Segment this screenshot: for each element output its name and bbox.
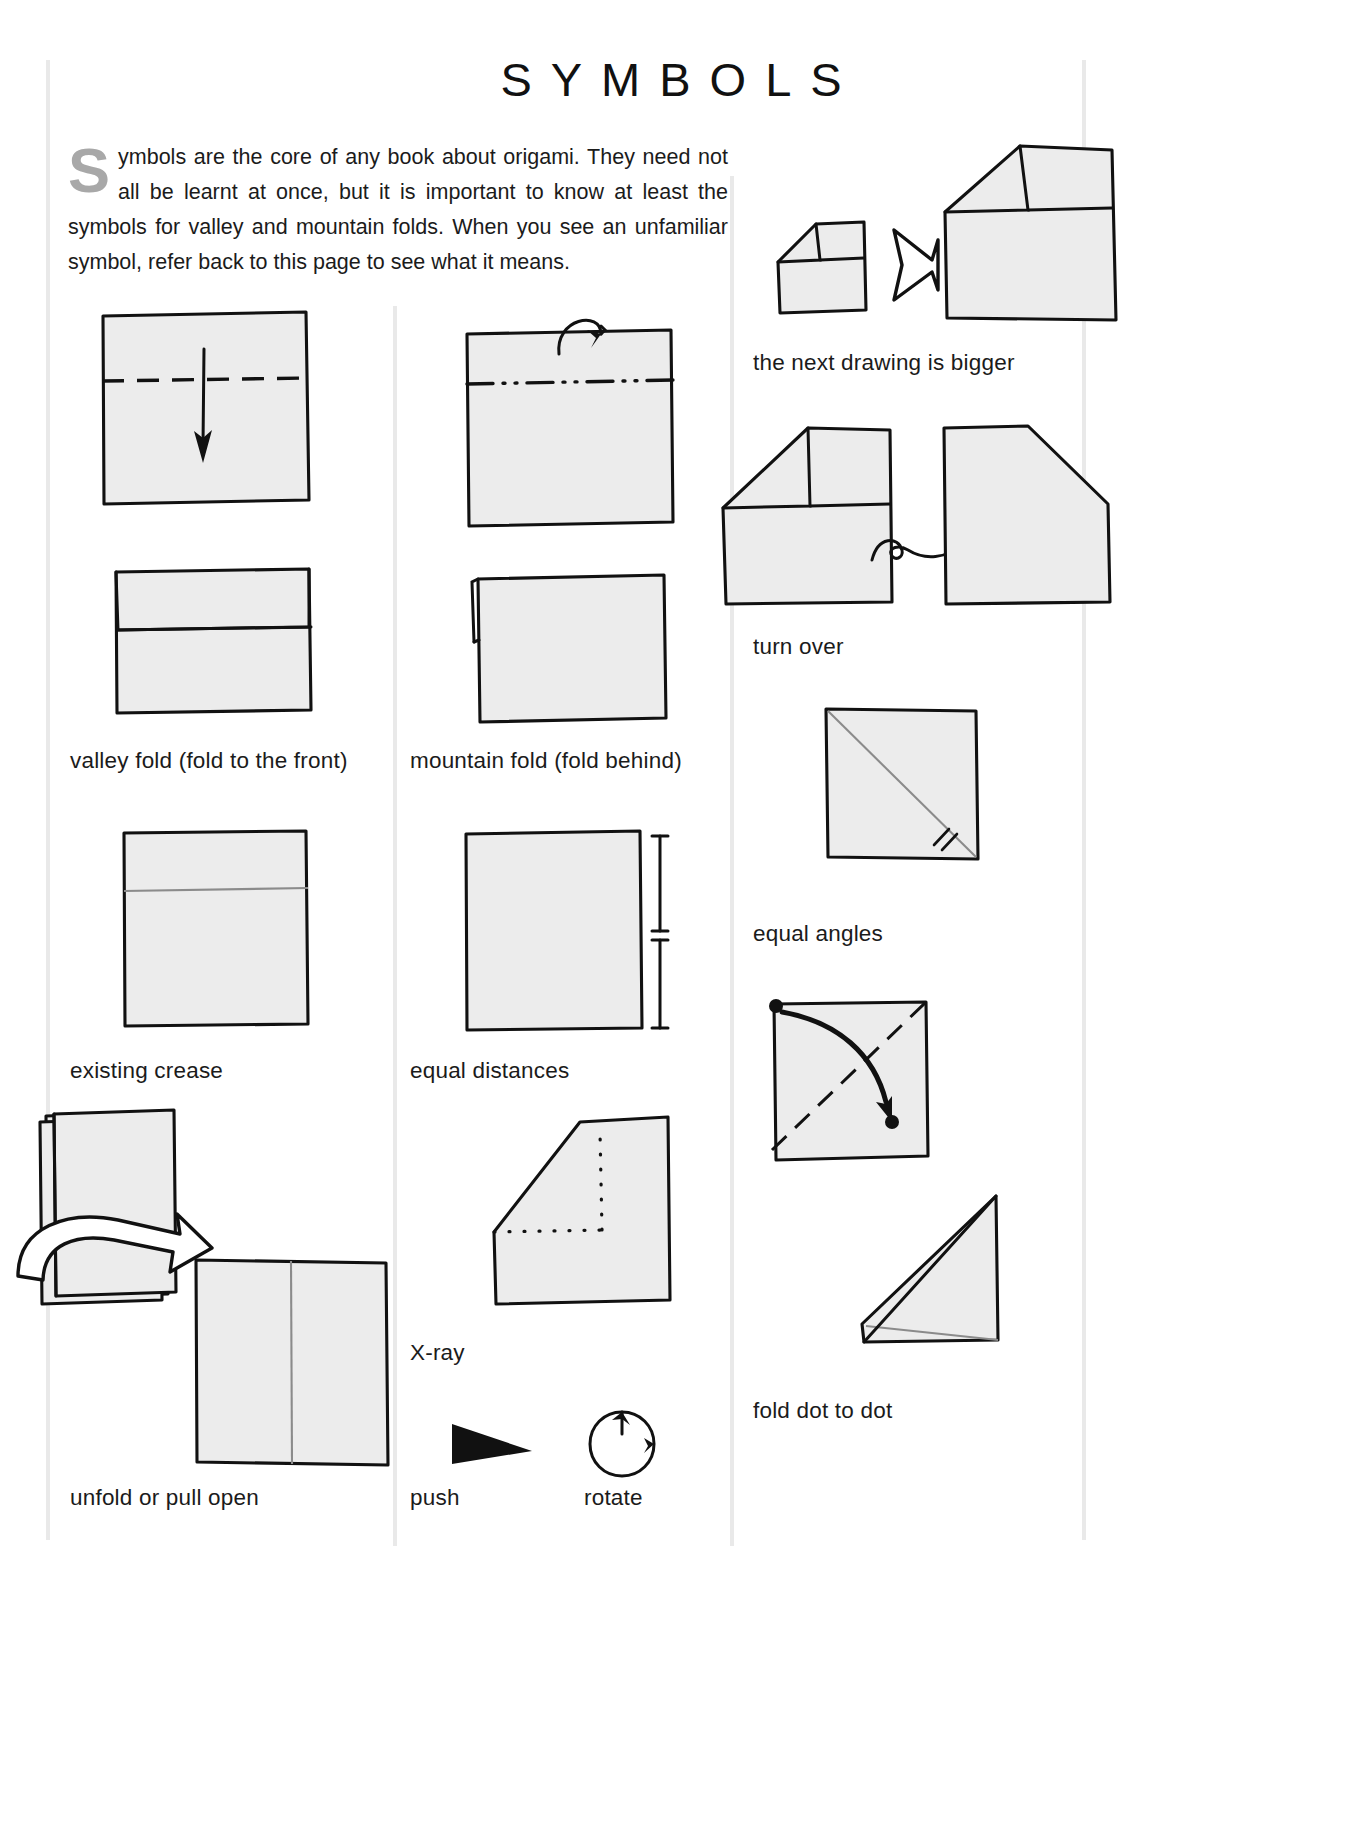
figure-fold-dot-to-dot-before [768, 998, 938, 1168]
figure-existing-crease [120, 828, 310, 1028]
caption-push: push [410, 1485, 460, 1511]
drop-cap: S [68, 144, 110, 196]
figure-equal-distances [462, 828, 672, 1033]
figure-x-ray [490, 1112, 680, 1307]
figure-push [448, 1418, 548, 1478]
figure-bigger-arrow [886, 226, 942, 304]
caption-mountain-fold: mountain fold (fold behind) [410, 748, 682, 774]
caption-x-ray: X-ray [410, 1340, 465, 1366]
figure-bigger-large [940, 140, 1120, 324]
figure-valley-fold-after [112, 566, 312, 716]
figure-rotate [582, 1404, 662, 1484]
figure-unfold-result [192, 1255, 392, 1470]
figure-valley-fold-before [98, 308, 313, 508]
figure-unfold-arrow [10, 1200, 220, 1310]
caption-equal-angles: equal angles [753, 921, 883, 947]
page-title: SYMBOLS [0, 52, 1361, 107]
origami-symbols-page: SYMBOLS Symbols are the core of any book… [0, 0, 1361, 1848]
vertical-rule-mid1 [393, 306, 397, 1546]
figure-equal-angles [822, 705, 982, 865]
caption-equal-distances: equal distances [410, 1058, 569, 1084]
figure-turn-over-right [938, 422, 1114, 608]
caption-rotate: rotate [584, 1485, 643, 1511]
figure-bigger-small [772, 218, 872, 318]
caption-unfold-or-pull-open: unfold or pull open [70, 1485, 259, 1511]
caption-fold-dot-to-dot: fold dot to dot [753, 1398, 892, 1424]
caption-existing-crease: existing crease [70, 1058, 223, 1084]
intro-text: ymbols are the core of any book about or… [68, 145, 728, 274]
figure-mountain-fold-after [468, 570, 668, 725]
caption-next-drawing-is-bigger: the next drawing is bigger [753, 350, 1015, 376]
intro-paragraph: Symbols are the core of any book about o… [68, 140, 728, 280]
figure-fold-dot-to-dot-after [858, 1190, 1008, 1350]
caption-valley-fold: valley fold (fold to the front) [70, 748, 348, 774]
vertical-rule-mid2 [730, 176, 734, 1546]
figure-mountain-fold-before [463, 312, 683, 527]
caption-turn-over: turn over [753, 634, 844, 660]
